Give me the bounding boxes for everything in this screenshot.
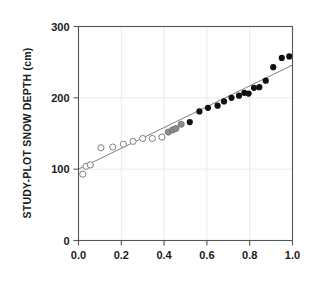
data-point-filled bbox=[215, 103, 221, 109]
data-points-group bbox=[80, 53, 293, 177]
data-point-open bbox=[149, 135, 155, 141]
x-axis-tick-labels: 0.00.20.40.60.81.0 bbox=[71, 249, 300, 261]
x-tick-label: 0.0 bbox=[71, 249, 86, 261]
regression-line-segment bbox=[79, 65, 293, 169]
data-point-filled bbox=[228, 95, 234, 101]
data-point-filled bbox=[256, 84, 262, 90]
data-point-filled bbox=[263, 78, 269, 84]
data-point-filled bbox=[221, 98, 227, 104]
y-axis-tick-labels: 0100200300 bbox=[51, 21, 69, 247]
gridlines-group bbox=[79, 27, 293, 241]
data-point-open bbox=[98, 145, 104, 151]
scatter-plot-figure: 0.00.20.40.60.81.0 0100200300 STUDY-PLOT… bbox=[0, 0, 318, 289]
data-point-filled bbox=[251, 85, 257, 91]
axes-frame bbox=[79, 27, 293, 241]
x-tick-label: 1.0 bbox=[285, 249, 300, 261]
plot-border bbox=[79, 27, 293, 241]
data-point-open bbox=[80, 171, 86, 177]
data-point-filled bbox=[236, 93, 242, 99]
data-point-open bbox=[110, 144, 116, 150]
y-axis-title: STUDY-PLOT SNOW DEPTH (cm) bbox=[21, 48, 33, 219]
x-tick-label: 0.2 bbox=[114, 249, 129, 261]
x-tick-label: 0.8 bbox=[242, 249, 257, 261]
x-tick-label: 0.6 bbox=[199, 249, 214, 261]
plot-canvas: 0.00.20.40.60.81.0 0100200300 STUDY-PLOT… bbox=[0, 0, 318, 289]
data-point-open bbox=[120, 141, 126, 147]
data-point-filled bbox=[205, 105, 211, 111]
data-point-gray bbox=[178, 121, 184, 127]
data-point-filled bbox=[187, 119, 193, 125]
data-point-open bbox=[130, 138, 136, 144]
data-point-gray bbox=[173, 125, 179, 131]
data-point-open bbox=[159, 134, 165, 140]
data-point-filled bbox=[279, 55, 285, 61]
data-point-filled bbox=[286, 53, 292, 59]
data-point-open bbox=[87, 162, 93, 168]
axis-ticks bbox=[74, 27, 293, 246]
x-tick-label: 0.4 bbox=[156, 249, 172, 261]
y-tick-label: 100 bbox=[51, 163, 69, 175]
y-tick-label: 300 bbox=[51, 21, 69, 33]
data-point-filled bbox=[270, 64, 276, 70]
data-point-filled bbox=[246, 90, 252, 96]
y-tick-label: 0 bbox=[63, 235, 69, 247]
y-tick-label: 200 bbox=[51, 92, 69, 104]
regression-line bbox=[79, 65, 293, 169]
data-point-open bbox=[140, 135, 146, 141]
data-point-filled bbox=[196, 108, 202, 114]
